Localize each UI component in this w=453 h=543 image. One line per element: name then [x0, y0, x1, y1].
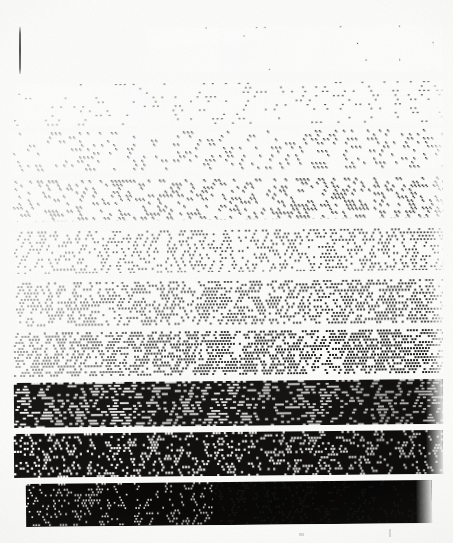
density-band — [14, 228, 443, 274]
margin-speck-right — [389, 529, 391, 537]
band-ink-canvas — [14, 430, 443, 478]
density-band — [16, 279, 443, 327]
band-ink-canvas — [11, 177, 443, 222]
density-band — [14, 430, 443, 478]
density-band — [14, 81, 443, 127]
band-ink-canvas — [14, 329, 443, 377]
band-ink-canvas — [16, 279, 443, 327]
margin-speck-left — [299, 533, 304, 536]
scanned-page: Dot-matrix halftone density gradient tes… — [0, 0, 453, 543]
registration-mark — [19, 27, 21, 74]
density-band — [11, 129, 443, 173]
band-ink-canvas — [14, 81, 443, 127]
density-band — [147, 25, 442, 73]
density-band — [14, 329, 443, 377]
band-ink-canvas — [11, 129, 443, 173]
density-band — [26, 480, 432, 527]
density-band — [11, 177, 443, 222]
band-ink-canvas — [14, 379, 443, 428]
density-band — [14, 379, 443, 428]
band-ink-canvas — [26, 480, 432, 527]
band-ink-canvas — [14, 228, 443, 274]
band-ink-canvas — [147, 25, 442, 73]
